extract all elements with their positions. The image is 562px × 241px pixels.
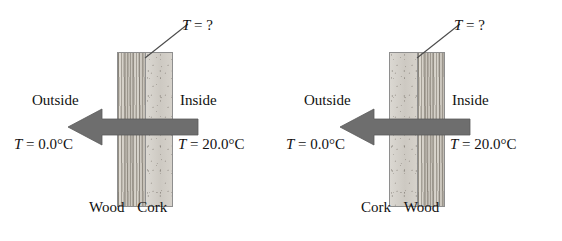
interface-temperature-label: T = ? [182,17,213,34]
inside-temperature-symbol: T [178,136,186,152]
interface-temperature-value: = ? [466,17,485,33]
inside-label: Inside [452,92,489,109]
outside-temperature-label: T = 0.0°C [14,136,73,153]
outside-temperature-value: = 0.0°C [26,136,73,152]
material-caption-right: Wood [404,199,439,215]
outside-label: Outside [304,92,351,109]
panel-cork-wood: T = ? Outside Inside T = 0.0°C T = 20.0°… [281,0,562,241]
heat-conduction-figure: T = ? Outside Inside T = 0.0°C T = 20.0°… [0,0,562,241]
outside-temperature-value: = 0.0°C [298,136,345,152]
material-caption-right: Cork [137,199,167,215]
material-captions: Wood Cork [89,199,167,216]
outside-temperature-symbol: T [14,136,22,152]
inside-temperature-symbol: T [450,136,458,152]
interface-temperature-label: T = ? [454,17,485,34]
panel-wood-cork: T = ? Outside Inside T = 0.0°C T = 20.0°… [0,0,281,241]
interface-temperature-value: = ? [194,17,213,33]
material-caption-left: Wood [89,199,124,215]
inside-temperature-label: T = 20.0°C [178,136,245,153]
inside-label: Inside [180,92,217,109]
inside-temperature-label: T = 20.0°C [450,136,517,153]
outside-temperature-symbol: T [286,136,294,152]
inside-temperature-value: = 20.0°C [462,136,516,152]
interface-temperature-symbol: T [182,17,190,33]
material-caption-left: Cork [361,199,391,215]
outside-label: Outside [32,92,79,109]
interface-temperature-symbol: T [454,17,462,33]
inside-temperature-value: = 20.0°C [190,136,244,152]
material-captions: Cork Wood [361,199,439,216]
outside-temperature-label: T = 0.0°C [286,136,345,153]
